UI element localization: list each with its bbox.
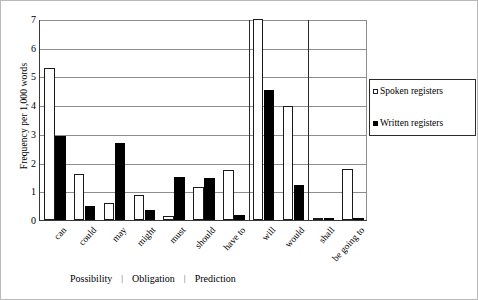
bar-spoken	[104, 203, 115, 220]
bar-written	[324, 218, 335, 220]
bar-written	[55, 136, 66, 220]
y-axis-tick-label: 5	[31, 72, 36, 82]
x-axis-label: can	[52, 225, 68, 241]
bar-written	[204, 178, 215, 220]
y-axis-tick-label: 4	[31, 101, 36, 111]
y-axis-tick-label: 3	[31, 130, 36, 140]
y-axis-title: Frequency per 1,000 words	[19, 31, 29, 201]
chart-figure: Frequency per 1,000 words 01234567 canco…	[0, 0, 478, 300]
x-axis-label: could	[77, 225, 99, 247]
legend-item-spoken: Spoken registers	[373, 86, 443, 97]
y-axis-tick-label: 1	[31, 187, 36, 197]
legend-swatch-filled-icon	[373, 121, 378, 126]
x-axis-label: would	[284, 225, 307, 249]
bar-spoken	[163, 216, 174, 220]
legend: Spoken registers Written registers	[369, 79, 476, 136]
x-axis-label: shall	[317, 225, 336, 245]
bar-written	[174, 177, 185, 220]
legend-item-written: Written registers	[373, 118, 443, 129]
bar-written	[294, 185, 305, 220]
legend-swatch-open-icon	[373, 89, 378, 94]
bar-written	[264, 90, 275, 220]
bar-spoken	[313, 218, 324, 220]
bar-series-container	[40, 20, 367, 220]
bar-written	[234, 215, 245, 220]
function-group-separator: |	[121, 273, 123, 283]
plot-area: 01234567	[39, 20, 367, 221]
x-axis-label: should	[193, 225, 217, 251]
bar-spoken	[193, 187, 204, 220]
bar-written	[145, 210, 156, 220]
bar-written	[85, 206, 96, 220]
legend-label-written: Written registers	[380, 118, 443, 129]
x-axis-label: have to	[221, 225, 247, 252]
bar-written	[353, 218, 364, 220]
group-separator	[249, 20, 250, 220]
function-group-label: Prediction	[186, 273, 245, 284]
y-axis-tick-label: 0	[31, 216, 36, 226]
legend-label-spoken: Spoken registers	[380, 86, 443, 97]
x-axis-label: will	[260, 225, 277, 243]
y-axis-tick-label: 6	[31, 44, 36, 54]
x-axis-label: may	[110, 225, 128, 244]
x-axis-label: must	[168, 225, 188, 245]
y-axis-tick-label: 7	[31, 15, 36, 25]
bar-spoken	[134, 195, 145, 220]
bar-spoken	[253, 19, 264, 220]
function-group-separator: |	[184, 273, 186, 283]
bar-spoken	[283, 106, 294, 220]
x-axis-label: might	[136, 225, 158, 248]
bar-spoken	[44, 68, 55, 220]
bar-spoken	[342, 169, 353, 220]
bar-spoken	[223, 170, 234, 220]
function-group-band: Possibility|Obligation|Prediction	[61, 273, 245, 284]
function-group-label: Possibility	[61, 273, 121, 284]
function-group-label: Obligation	[123, 273, 184, 284]
y-axis-tick-label: 2	[31, 159, 36, 169]
bar-written	[115, 143, 126, 220]
bar-spoken	[74, 174, 85, 220]
group-separator	[308, 20, 309, 220]
